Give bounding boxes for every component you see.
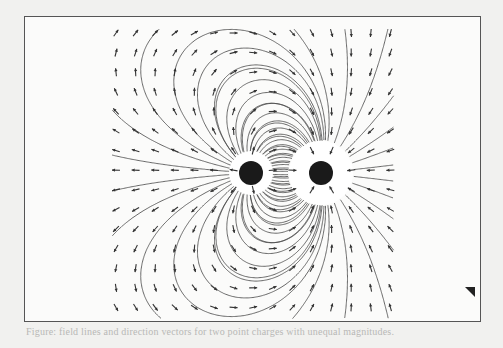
arrow-icon (154, 68, 157, 71)
figure-caption: Figure: field lines and direction vector… (26, 326, 496, 337)
arrow-icon (350, 303, 353, 306)
field-line (263, 192, 296, 200)
arrow-icon (369, 34, 372, 37)
arrow-icon (367, 169, 370, 172)
arrow-icon (193, 250, 196, 253)
arrow-icon (190, 169, 193, 172)
arrow-icon (210, 169, 213, 172)
arrow-icon (330, 225, 333, 228)
arrow-icon (114, 68, 117, 71)
field-line (112, 174, 238, 191)
field-line (340, 29, 388, 146)
field-line (112, 110, 238, 170)
arrow-icon (350, 54, 353, 57)
arrow-icon (171, 169, 174, 172)
arrow-icon (350, 264, 353, 267)
arrow-icon (151, 169, 154, 172)
arrow-icon (193, 88, 196, 91)
corner-triangle-icon (465, 287, 475, 297)
arrow-icon (232, 127, 235, 130)
field-plot (0, 0, 503, 348)
field-line (352, 148, 393, 163)
arrow-icon (132, 169, 135, 172)
field-line (340, 200, 388, 319)
arrow-icon (274, 247, 277, 250)
field-line (350, 190, 394, 219)
arrow-icon (173, 269, 176, 272)
field-line (334, 29, 347, 143)
arrow-icon (134, 68, 137, 71)
field-line (112, 155, 238, 172)
arrow-icon (330, 245, 333, 248)
right-charge-icon (309, 161, 333, 185)
arrow-icon (254, 51, 257, 54)
field-line (334, 203, 347, 318)
field-line (354, 165, 393, 170)
field-line (354, 176, 393, 181)
arrow-icon (154, 269, 157, 272)
arrow-icon (330, 112, 333, 115)
field-line (346, 96, 394, 151)
arrow-icon (350, 284, 353, 287)
left-charge-icon (239, 161, 263, 185)
arrow-icon (112, 169, 115, 172)
arrow-icon (212, 107, 215, 110)
arrow-icon (350, 73, 353, 76)
arrow-icon (386, 169, 389, 172)
arrow-icon (235, 31, 238, 34)
field-line (346, 195, 394, 250)
arrow-icon (254, 286, 257, 289)
field-line (112, 176, 238, 236)
arrow-icon (350, 34, 353, 37)
arrow-icon (235, 306, 238, 309)
